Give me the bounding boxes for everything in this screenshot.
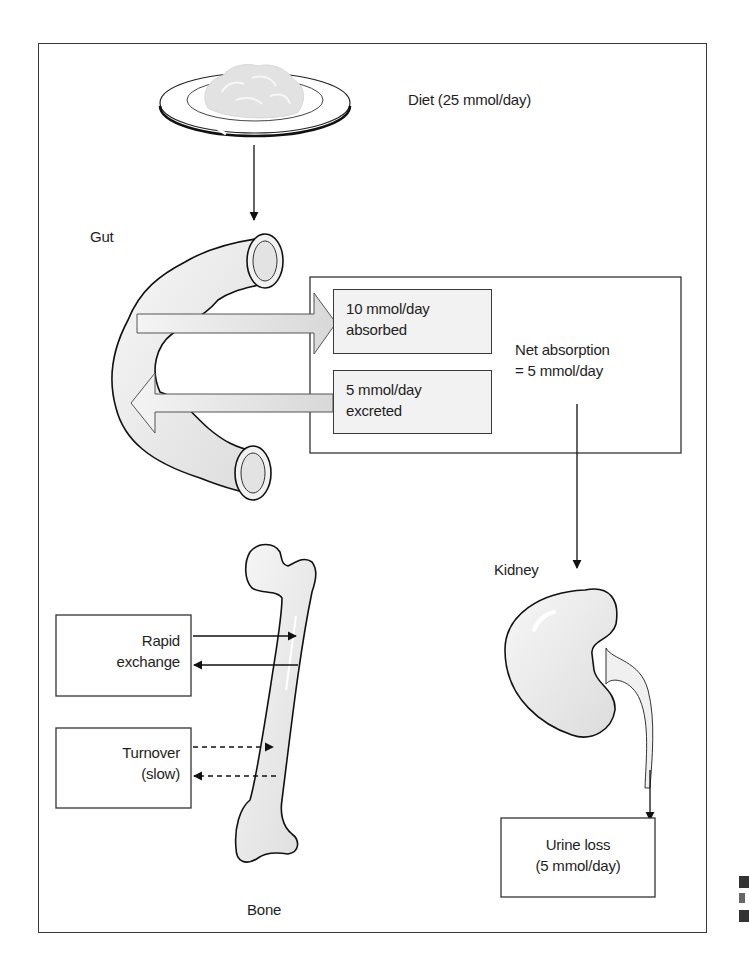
turnover-line1: Turnover (56, 742, 180, 763)
urine-loss-text: Urine loss (5 mmol/day) (501, 834, 655, 876)
clipped-caption-fragment (739, 876, 749, 888)
gut-icon (112, 234, 283, 500)
rapid-line2: exchange (56, 651, 180, 672)
excreted-line2: excreted (346, 400, 422, 421)
absorbed-line1: 10 mmol/day (346, 298, 430, 319)
absorbed-line2: absorbed (346, 319, 430, 340)
excreted-line1: 5 mmol/day (346, 379, 422, 400)
bone-icon (236, 545, 316, 863)
kidney-icon (505, 589, 653, 788)
rapid-line1: Rapid (56, 630, 180, 651)
net-absorption-text: Net absorption = 5 mmol/day (515, 339, 610, 381)
turnover-text: Turnover (slow) (56, 742, 180, 784)
kidney-label: Kidney (494, 560, 539, 580)
gut-label: Gut (90, 227, 114, 247)
plate-icon (160, 64, 350, 136)
net-line1: Net absorption (515, 339, 610, 360)
urine-line2: (5 mmol/day) (501, 855, 655, 876)
diet-label: Diet (25 mmol/day) (408, 90, 531, 110)
net-line2: = 5 mmol/day (515, 360, 610, 381)
clipped-caption-fragment (739, 893, 745, 903)
absorbed-text: 10 mmol/day absorbed (346, 298, 430, 340)
turnover-line2: (slow) (56, 763, 180, 784)
bone-label: Bone (247, 900, 281, 920)
urine-line1: Urine loss (501, 834, 655, 855)
clipped-caption-fragment (739, 910, 749, 922)
rapid-exchange-text: Rapid exchange (56, 630, 180, 672)
excreted-text: 5 mmol/day excreted (346, 379, 422, 421)
